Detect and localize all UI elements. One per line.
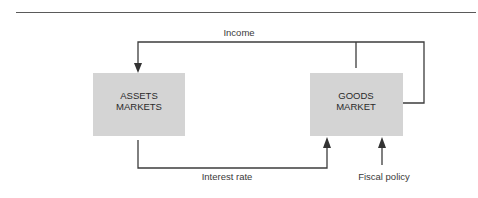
arrowhead-down-icon [134,63,142,73]
goods-box-line1: GOODS [338,90,373,101]
flow-diagram: Income ASSETS MARKETS GOODS MARKET Inter… [0,0,478,198]
fiscal-policy-connector [378,137,386,165]
assets-box-line2: MARKETS [116,101,162,112]
fiscal-policy-label: Fiscal policy [358,171,410,182]
goods-box-line2: MARKET [336,101,376,112]
goods-market-box: GOODS MARKET [310,73,403,136]
interest-rate-connector [138,137,331,168]
arrowhead-up-icon [378,137,386,148]
income-label: Income [223,27,254,38]
assets-box-line1: ASSETS [120,90,158,101]
assets-markets-box: ASSETS MARKETS [93,73,185,136]
interest-rate-label: Interest rate [202,171,253,182]
arrowhead-up-icon [323,137,331,148]
